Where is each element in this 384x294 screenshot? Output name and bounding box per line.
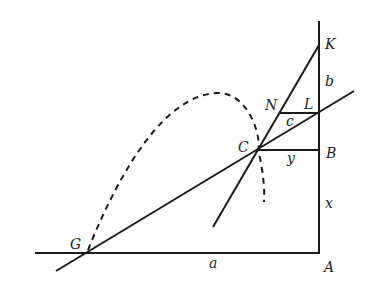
label-segment-x: x: [325, 195, 333, 211]
label-l: L: [303, 96, 313, 112]
line-knc: [213, 45, 319, 227]
geometry-diagram: K L N B C G A a b c x y: [0, 0, 384, 294]
label-a-point: A: [322, 259, 334, 275]
label-b: B: [325, 145, 336, 161]
label-segment-c: c: [286, 113, 294, 129]
label-c: C: [238, 139, 249, 155]
label-segment-b: b: [325, 73, 334, 89]
diagram-canvas: K L N B C G A a b c x y: [0, 0, 384, 294]
label-segment-y: y: [286, 150, 296, 166]
label-k: K: [324, 36, 337, 52]
label-g: G: [70, 236, 81, 252]
line-gcl: [56, 91, 354, 271]
label-segment-a: a: [209, 255, 217, 271]
dashed-curve: [88, 93, 264, 250]
label-n: N: [264, 97, 278, 113]
